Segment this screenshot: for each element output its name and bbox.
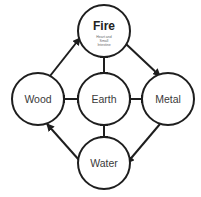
node-water: Water [78, 137, 130, 189]
node-fire-label: Fire [93, 19, 115, 33]
node-earth-label: Earth [91, 93, 116, 105]
arrow-wood-to-fire [50, 38, 80, 76]
node-water-label: Water [90, 157, 118, 169]
node-wood-label: Wood [24, 93, 51, 105]
arrow-metal-to-water [127, 124, 160, 163]
node-metal-label: Metal [155, 93, 181, 105]
node-fire: Fire Heart and Small Intestine [78, 5, 130, 57]
connector-earth-metal [130, 95, 142, 103]
node-metal: Metal [142, 73, 194, 125]
node-wood: Wood [12, 73, 64, 125]
arrow-water-to-wood [47, 124, 79, 160]
node-earth: Earth [78, 73, 130, 125]
five-elements-diagram: Fire Heart and Small Intestine Wood Eart… [0, 0, 201, 197]
connector-earth-wood [64, 95, 78, 103]
connector-earth-water [100, 125, 108, 137]
node-fire-sublabel-3: Intestine [97, 43, 110, 47]
connector-earth-fire [100, 57, 108, 73]
arrow-fire-to-metal [126, 44, 160, 76]
